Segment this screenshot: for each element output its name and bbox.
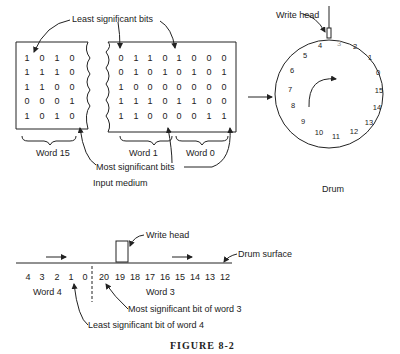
bit: 1 [219,112,229,121]
drum-write-head-label: Write head [276,11,319,20]
drum-position: 8 [287,102,299,110]
bit: 1 [189,68,199,77]
bit: 0 [204,54,214,63]
bit: 0 [116,68,126,77]
bit: 0 [37,97,47,106]
bit: 1 [37,68,47,77]
drum-write-head [327,28,331,38]
drum-position: 6 [286,67,298,75]
bit: 1 [174,54,184,63]
word-15-label: Word 15 [36,149,70,158]
bit: 1 [219,68,229,77]
bit: 1 [131,54,141,63]
bit: 1 [37,83,47,92]
drum-position: 5 [299,52,311,60]
drum-position: 9 [297,118,309,126]
drum-position: 13 [363,119,375,127]
surface-write-head-label: Write head [146,231,189,240]
bit: 0 [52,83,62,92]
surface-bit: 12 [218,273,232,282]
bit: 0 [189,83,199,92]
bit: 1 [160,68,170,77]
figure-caption: FIGURE 8-2 [170,340,235,351]
surface-write-head [116,241,128,262]
bit: 0 [37,54,47,63]
word-3-label: Word 3 [146,288,175,297]
bit: 0 [131,83,141,92]
bit: 0 [160,83,170,92]
bit: 0 [22,97,32,106]
bit: 1 [52,54,62,63]
drum-position: 15 [373,87,385,95]
drum-position: 7 [284,86,296,94]
lsb-word-4-label: Least significant bit of word 4 [88,321,204,330]
bit: 0 [219,83,229,92]
bit: 1 [174,97,184,106]
surface-bit: 19 [113,273,127,282]
bit: 1 [22,83,32,92]
most-significant-bits-label: Most significant bits [96,163,175,172]
word-0-label: Word 0 [186,149,215,158]
bit: 0 [160,54,170,63]
drum-position: 10 [313,129,325,137]
surface-bit: 13 [203,273,217,282]
bit: 1 [22,54,32,63]
drum-surface-label: Drum surface [238,250,292,259]
drum-position: 12 [348,128,360,136]
bit: 0 [145,112,155,121]
drum-position: 3 [333,40,345,48]
drum-position: 1 [364,54,376,62]
least-significant-bits-label: Least significant bits [72,15,153,24]
bit: 1 [22,112,32,121]
surface-bit: 4 [23,273,33,282]
bit: 1 [131,112,141,121]
bit: 0 [160,112,170,121]
bit: 0 [189,112,199,121]
bit: 0 [116,54,126,63]
bit: 0 [37,112,47,121]
bit: 0 [52,97,62,106]
surface-bit: 1 [66,273,76,282]
surface-bit: 3 [37,273,47,282]
bit: 1 [116,97,126,106]
bit: 1 [22,68,32,77]
bit: 1 [131,68,141,77]
surface-bit: 17 [143,273,157,282]
msb-word-3-label: Most significant bit of word 3 [128,305,242,314]
drum-label: Drum [322,185,344,194]
bit: 1 [189,97,199,106]
bit: 1 [52,112,62,121]
surface-bit: 14 [188,273,202,282]
bit: 0 [204,97,214,106]
bit: 0 [145,68,155,77]
bit: 0 [145,83,155,92]
surface-bit: 15 [173,273,187,282]
bit: 0 [204,68,214,77]
word-1-label: Word 1 [129,149,158,158]
bit: 0 [174,83,184,92]
bit: 1 [67,97,77,106]
surface-bit: 16 [158,273,172,282]
surface-bit: 20 [97,273,111,282]
input-medium-label: Input medium [93,179,148,188]
drum-position: 2 [349,43,361,51]
bit: 0 [67,54,77,63]
bit: 0 [174,68,184,77]
bit: 1 [131,97,141,106]
word-4-label: Word 4 [33,288,62,297]
bit: 0 [189,54,199,63]
bit: 0 [67,83,77,92]
drum-position: 14 [371,104,383,112]
bit: 0 [160,97,170,106]
bit: 0 [204,83,214,92]
bit: 1 [116,112,126,121]
surface-bit: 18 [128,273,142,282]
drum-position: 11 [330,133,342,141]
drum-position: 4 [314,42,326,50]
surface-bit: 0 [80,273,90,282]
bit: 1 [145,54,155,63]
bit: 0 [67,112,77,121]
bit: 0 [219,54,229,63]
bit: 1 [204,112,214,121]
bit: 1 [116,83,126,92]
